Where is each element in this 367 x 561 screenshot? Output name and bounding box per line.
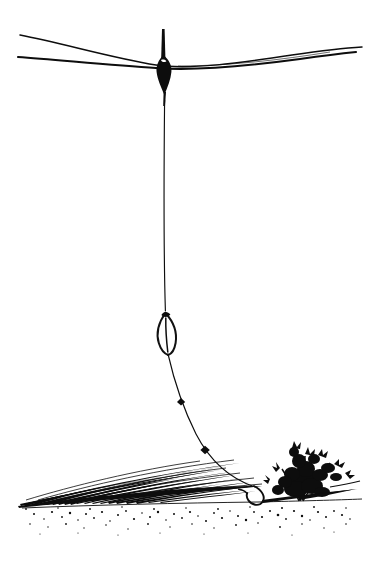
bush-leaf-cluster: [330, 473, 342, 481]
bush-leaf-cluster: [321, 463, 335, 473]
bush-leaf-cluster: [272, 485, 284, 495]
fishing-rig-illustration: Fishing float rig in water Pen-and-ink l…: [0, 0, 367, 561]
illustration-canvas: Fishing float rig in water Pen-and-ink l…: [0, 0, 367, 561]
